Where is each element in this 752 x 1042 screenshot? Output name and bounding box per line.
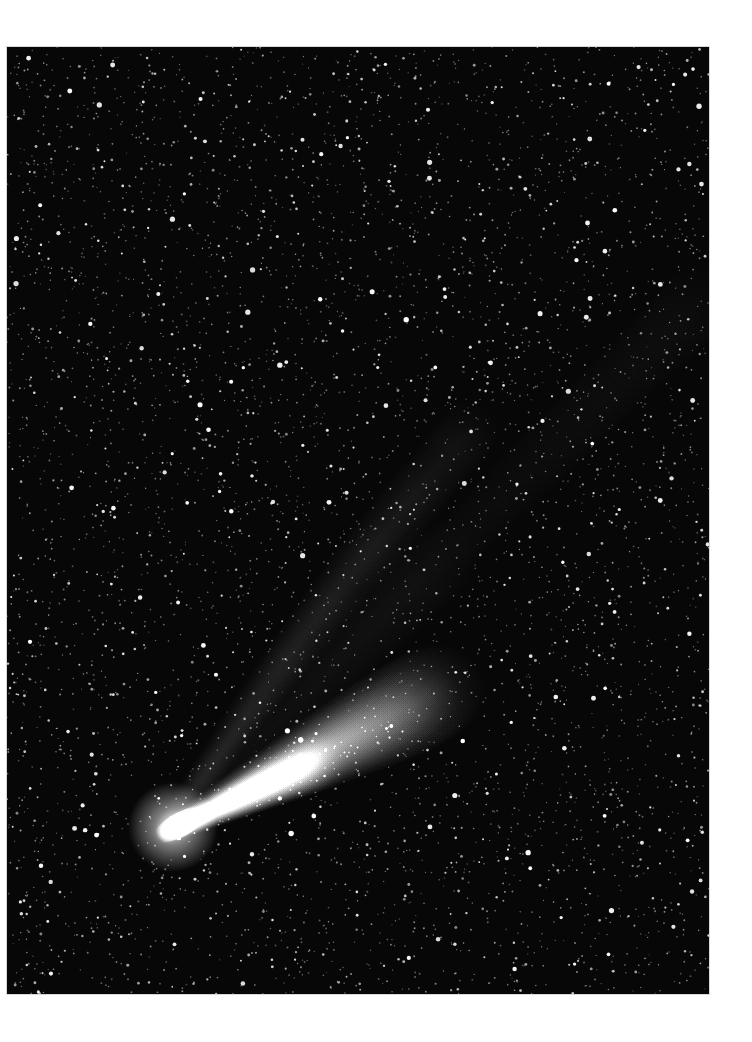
star-field-with-comet bbox=[7, 47, 709, 994]
comet-photograph bbox=[7, 47, 709, 994]
